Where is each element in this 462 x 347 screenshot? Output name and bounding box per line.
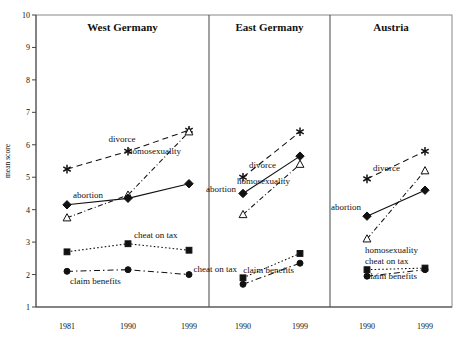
marker-filled-diamond bbox=[239, 189, 247, 197]
y-tick-label: 2 bbox=[26, 271, 30, 280]
x-tick-label: 1981 bbox=[59, 322, 75, 331]
series-label-claim-benefits: claim benefits bbox=[243, 265, 294, 275]
marker-filled-square bbox=[64, 249, 70, 255]
panel-title-west: West Germany bbox=[87, 21, 158, 33]
panel-title-east: East Germany bbox=[235, 21, 304, 33]
y-tick-label: 8 bbox=[26, 76, 30, 85]
marker-filled-diamond bbox=[363, 212, 371, 220]
y-tick-label: 6 bbox=[26, 141, 30, 150]
series-divorce bbox=[239, 128, 303, 182]
series-label-cheat-on-tax: cheat on tax bbox=[365, 256, 409, 266]
series-label-divorce: divorce bbox=[109, 134, 136, 144]
y-tick-label: 4 bbox=[26, 206, 30, 215]
series-line bbox=[243, 164, 300, 214]
marker-open-triangle bbox=[421, 167, 429, 174]
y-tick-label: 1 bbox=[26, 303, 30, 312]
marker-filled-circle bbox=[240, 281, 246, 287]
x-tick-label: 1990 bbox=[359, 322, 375, 331]
marker-filled-circle bbox=[422, 267, 428, 273]
marker-filled-diamond bbox=[63, 201, 71, 209]
x-tick-label: 1999 bbox=[181, 322, 197, 331]
marker-filled-circle bbox=[186, 272, 192, 278]
series-abortion bbox=[363, 186, 429, 220]
x-tick-label: 1999 bbox=[292, 322, 308, 331]
series-label-homosexuality: homosexuality bbox=[237, 176, 290, 186]
series-label-cheat-on-tax: cheat on tax bbox=[194, 264, 238, 274]
series-label-abortion: abortion bbox=[331, 202, 361, 212]
y-axis-title: mean score bbox=[3, 143, 12, 178]
series-label-homosexuality: homosexuality bbox=[365, 245, 418, 255]
series-homosexuality bbox=[363, 167, 429, 242]
series-cheat-on-tax bbox=[64, 241, 192, 255]
marker-filled-diamond bbox=[185, 180, 193, 188]
y-tick-label: 10 bbox=[22, 11, 30, 20]
marker-filled-circle bbox=[297, 260, 303, 266]
x-tick-label: 1990 bbox=[120, 322, 136, 331]
series-label-claim-benefits: claim benefits bbox=[366, 271, 417, 281]
series-label-claim-benefits: claim benefits bbox=[70, 276, 121, 286]
series-line bbox=[367, 268, 425, 270]
marker-filled-diamond bbox=[296, 152, 304, 160]
panel-east bbox=[239, 128, 304, 288]
series-abortion bbox=[239, 152, 304, 198]
series-line bbox=[67, 132, 189, 218]
series-label-homosexuality: homosexuality bbox=[128, 146, 181, 156]
series-label-abortion: abortion bbox=[206, 184, 236, 194]
panel-title-austria: Austria bbox=[373, 21, 409, 33]
chart-figure: 12345678910mean scoreWest Germany1981199… bbox=[0, 0, 462, 347]
y-tick-label: 5 bbox=[26, 173, 30, 182]
marker-filled-square bbox=[297, 251, 303, 257]
series-label-divorce: divorce bbox=[249, 160, 276, 170]
series-line bbox=[243, 132, 300, 177]
marker-filled-circle bbox=[64, 268, 70, 274]
marker-filled-diamond bbox=[421, 186, 429, 194]
x-tick-label: 1999 bbox=[417, 322, 433, 331]
marker-filled-square bbox=[125, 241, 131, 247]
x-tick-label: 1990 bbox=[235, 322, 251, 331]
marker-filled-circle bbox=[125, 267, 131, 273]
y-tick-label: 3 bbox=[26, 238, 30, 247]
y-tick-label: 9 bbox=[26, 43, 30, 52]
trend-line-chart: 12345678910mean scoreWest Germany1981199… bbox=[0, 0, 462, 347]
marker-filled-square bbox=[186, 247, 192, 253]
series-line bbox=[367, 171, 425, 239]
marker-filled-square bbox=[240, 275, 246, 281]
y-tick-label: 7 bbox=[26, 108, 30, 117]
series-label-cheat-on-tax: cheat on tax bbox=[134, 230, 178, 240]
series-label-abortion: abortion bbox=[73, 190, 103, 200]
series-label-divorce: divorce bbox=[373, 163, 400, 173]
marker-open-triangle bbox=[296, 160, 304, 167]
series-line bbox=[367, 190, 425, 216]
